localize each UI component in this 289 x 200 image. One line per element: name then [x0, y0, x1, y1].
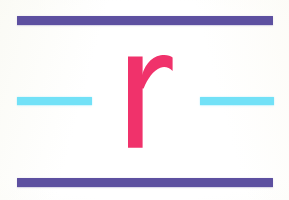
artwork-canvas: r [0, 0, 289, 200]
pink-letter-r [120, 48, 180, 154]
letter-r-stem [128, 56, 143, 147]
left-cyan-dash [17, 97, 92, 105]
right-cyan-dash [200, 97, 274, 105]
top-purple-rule [17, 16, 273, 25]
letter-r-shoulder [141, 55, 172, 88]
bottom-purple-rule [17, 178, 273, 187]
